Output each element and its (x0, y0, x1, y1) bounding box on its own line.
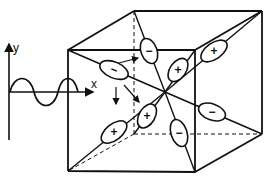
svg-text:+: + (210, 44, 217, 58)
dipole-bottom-left-inner: + (134, 101, 161, 132)
arrow-diagonal-icon (124, 85, 139, 102)
cube-diagonals (68, 11, 262, 172)
coordinate-axes: y x (9, 41, 97, 140)
svg-text:−: − (208, 105, 215, 119)
x-axis-label: x (91, 77, 97, 91)
svg-text:+: + (174, 63, 181, 77)
dipole-top-back-left: − (137, 36, 161, 66)
dipole-bottom-center: − (167, 117, 191, 149)
svg-text:−: − (145, 44, 152, 58)
y-axis-label: y (13, 41, 19, 55)
svg-text:+: + (110, 125, 117, 139)
svg-text:+: + (143, 109, 150, 123)
svg-text:−: − (175, 126, 182, 140)
dipole-right-lower: − (196, 100, 228, 125)
diagram-canvas: y x (0, 0, 269, 182)
